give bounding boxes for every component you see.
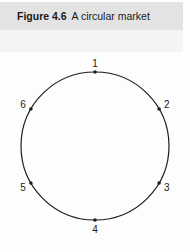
point-4-label: 4 <box>92 224 98 235</box>
point-1-label: 1 <box>92 58 98 69</box>
circular-market-diagram: 123456 <box>0 0 190 252</box>
market-circle <box>21 72 169 220</box>
market-points: 123456 <box>20 58 170 235</box>
point-6-label: 6 <box>20 99 26 110</box>
point-3-label: 3 <box>164 182 170 193</box>
point-5-label: 5 <box>20 182 26 193</box>
point-4-marker <box>93 218 97 222</box>
point-5-marker <box>29 181 33 185</box>
point-3-marker <box>157 181 161 185</box>
point-1-marker <box>93 70 97 74</box>
point-2-label: 2 <box>164 99 170 110</box>
point-6-marker <box>29 107 33 111</box>
point-2-marker <box>157 107 161 111</box>
